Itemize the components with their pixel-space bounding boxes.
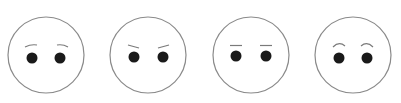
left-eye-icon (129, 52, 140, 63)
right-eye-icon (158, 52, 169, 63)
right-eye-icon (362, 53, 373, 64)
face-outline (315, 17, 391, 93)
left-eye-icon (27, 53, 38, 64)
face-worried (8, 17, 84, 93)
face-outline (213, 17, 289, 93)
left-eye-icon (334, 53, 345, 64)
face-surprised (315, 17, 391, 93)
right-eye-icon (261, 51, 272, 62)
left-eye-icon (231, 51, 242, 62)
face-neutral (213, 17, 289, 93)
face-outline (8, 17, 84, 93)
right-eye-icon (55, 53, 66, 64)
face-angry (110, 17, 186, 93)
face-outline (110, 17, 186, 93)
faces-canvas (0, 0, 401, 103)
